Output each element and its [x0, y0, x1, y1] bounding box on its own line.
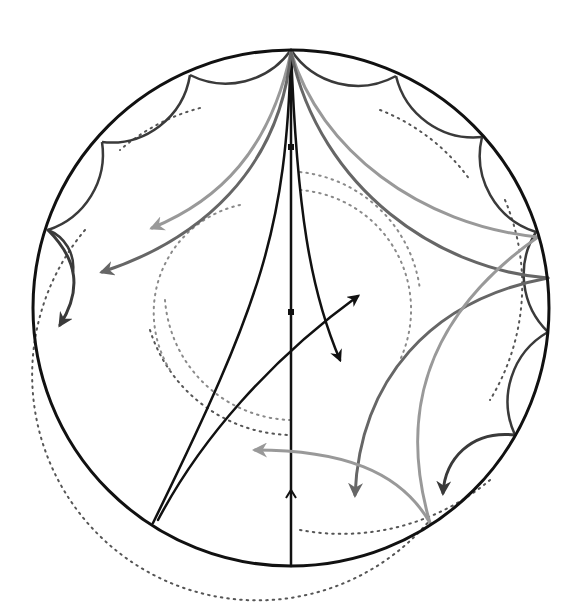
geodesic-upper-left-dark [102, 52, 291, 272]
geodesic-boundary-left [48, 230, 74, 325]
geodesic-right-cusp [291, 50, 340, 360]
diagram-canvas [0, 0, 579, 608]
boundary-arcs-layer [48, 50, 548, 435]
boundary-arc-7 [480, 137, 536, 232]
dotted-circle-center-left [154, 205, 240, 370]
boundary-arc-6 [396, 76, 482, 137]
geodesics-layer [48, 50, 548, 566]
poincare-disk-diagram [0, 0, 579, 608]
geodesic-left-cusp [153, 50, 291, 523]
geodesic-bottom-to-left [255, 450, 430, 523]
square-marker-center [288, 309, 294, 315]
boundary-arc-3 [48, 142, 103, 230]
dotted-circles-layer [32, 108, 522, 600]
square-marker-upper [288, 144, 294, 150]
boundary-arc-2 [102, 75, 190, 143]
boundary-arc-4 [48, 230, 73, 272]
geodesic-right-to-bottom-light [418, 237, 538, 523]
dotted-circle-lower-right [300, 480, 490, 534]
dotted-circle-upper-a [120, 108, 200, 150]
